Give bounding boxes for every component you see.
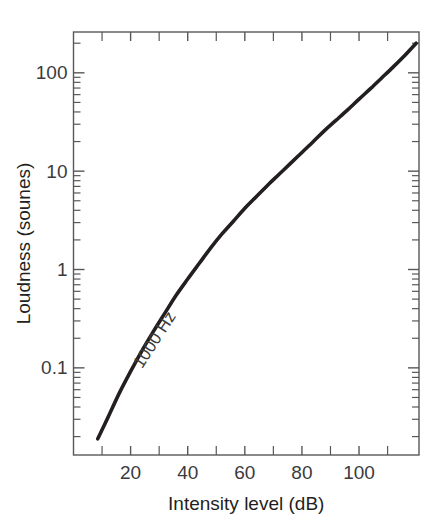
y-tick-label: 0.1 (41, 357, 67, 378)
x-tick-label: 80 (291, 462, 312, 483)
x-tick-label: 60 (234, 462, 255, 483)
x-axis-title: Intensity level (dB) (168, 493, 324, 514)
x-tick-label: 20 (120, 462, 141, 483)
chart-canvas: 20406080100 0.1110100 1000 Hz Intensity … (0, 0, 440, 525)
x-tick-label: 40 (177, 462, 198, 483)
y-tick-label: 1 (57, 259, 68, 280)
loudness-chart-figure: 20406080100 0.1110100 1000 Hz Intensity … (0, 0, 440, 525)
x-tick-label: 100 (343, 462, 375, 483)
y-tick-label: 100 (36, 62, 68, 83)
y-tick-label: 10 (46, 161, 67, 182)
y-axis-title: Loudness (sounes) (13, 163, 34, 325)
